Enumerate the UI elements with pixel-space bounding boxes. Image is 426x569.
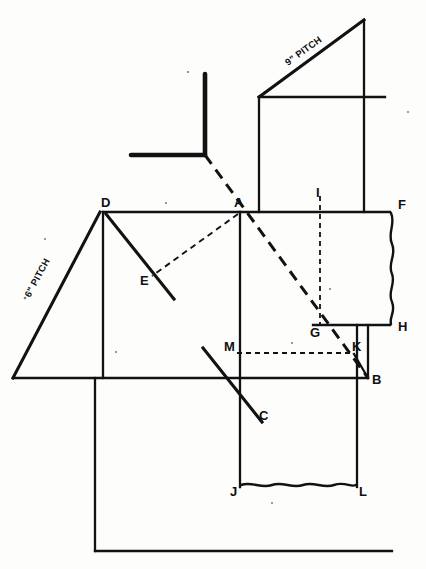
upper-corner-indicator [131, 74, 368, 378]
point-label-i: I [316, 185, 320, 200]
pitch-rafter-line-upper [259, 20, 364, 97]
dashed-line-a-to-e [152, 214, 238, 276]
speck-8 [291, 342, 293, 344]
speck-7 [329, 288, 331, 290]
upper-right-pitch-triangle [259, 20, 385, 212]
right-panel-group [313, 196, 393, 325]
speck-5 [24, 297, 27, 300]
break-line-right [390, 213, 393, 324]
point-label-g: G [310, 325, 320, 340]
point-label-m: M [224, 339, 235, 354]
point-label-b: B [372, 372, 381, 387]
main-plate-lines [13, 212, 390, 378]
pitch-label-lower-left: 6" PITCH [22, 256, 52, 299]
technical-drawing-svg: 9" PITCH 6" PITCH A B C D E F G H I J K … [0, 0, 426, 569]
diagram-canvas: 9" PITCH 6" PITCH A B C D E F G H I J K … [0, 0, 426, 569]
pitch-label-upper-right: 9" PITCH [283, 34, 324, 68]
speck-9 [271, 502, 273, 504]
outer-bottom-frame [95, 378, 392, 551]
speck-6 [115, 351, 117, 353]
point-label-l: L [359, 484, 367, 499]
point-label-j: J [230, 484, 237, 499]
speck-1 [187, 71, 189, 73]
valley-rafter-group [106, 214, 262, 422]
point-label-e: E [140, 273, 149, 288]
point-label-h: H [398, 319, 407, 334]
speck-2 [407, 111, 409, 113]
point-label-d: D [101, 195, 110, 210]
paper-specks [24, 71, 409, 504]
point-label-a: A [234, 195, 244, 210]
bottom-box-group [241, 484, 356, 486]
speck-3 [165, 202, 167, 204]
point-label-c: C [259, 408, 269, 423]
point-label-f: F [398, 197, 406, 212]
point-label-k: K [352, 339, 362, 354]
center-vertical-lines [240, 212, 357, 487]
speck-4 [44, 238, 46, 240]
jack-rafter-line-upper [203, 348, 262, 422]
break-line-bottom [241, 484, 356, 486]
